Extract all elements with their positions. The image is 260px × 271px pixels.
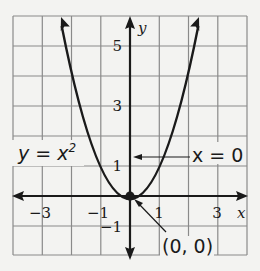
x-tick-neg3: −3 [29,204,51,222]
y-tick-1: 1 [112,157,122,175]
x-tick-3: 3 [212,204,222,222]
vertex-label: (0, 0) [162,235,213,257]
y-tick-neg1: −1 [100,218,122,236]
y-tick-3: 3 [112,97,122,115]
x-axis-label: x [237,204,246,222]
parabola-graph: −3 −1 1 3 x 5 3 1 −1 y y = x2 x = 0 (0, … [0,0,260,271]
symmetry-arrow [133,154,190,160]
vertex-point [126,192,135,201]
curve-label: y = x2 [17,141,76,164]
y-tick-5: 5 [112,37,122,55]
x-tick-1: 1 [154,204,164,222]
symmetry-label: x = 0 [192,144,243,166]
y-axis [125,16,135,260]
y-axis-label: y [137,19,147,37]
